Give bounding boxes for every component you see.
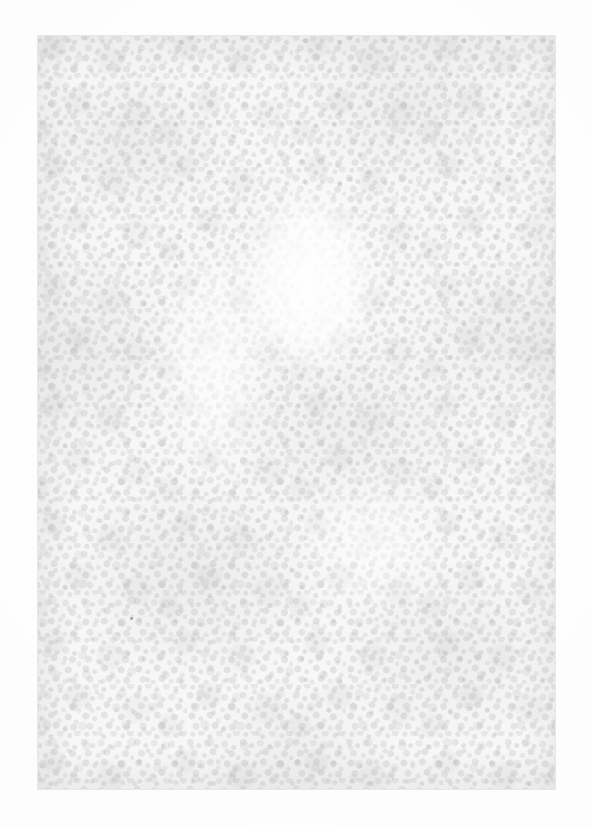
scan-frame-border <box>37 35 556 790</box>
scanned-page <box>0 0 592 826</box>
paper-surface <box>38 36 555 789</box>
